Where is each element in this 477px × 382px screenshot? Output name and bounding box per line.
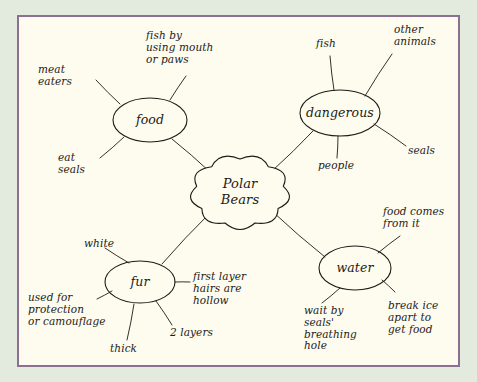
leaf-label-other-animals: other animals [394,24,436,48]
connector-food-to-meat-eaters [96,80,120,104]
leaf-label-eat-seals: eat seals [58,152,85,176]
connector-water-to-food-comes-from-it [378,236,400,253]
leaf-label-thick: thick [110,343,137,355]
leaf-label-used-for-protection-or-camouflage: used for protection or camouflage [28,292,106,327]
branch-node-label-food: food [136,113,164,127]
connector-dangerous-to-seals [374,124,406,146]
connector-center-to-food [172,139,210,172]
branch-node-label-dangerous: dangerous [306,106,374,120]
connector-water-to-wait-by-seals-breathing-hole [322,288,340,303]
poster-background: Polar Bearsfoodmeat eatersfish by using … [0,0,477,382]
leaf-label-wait-by-seals-breathing-hole: wait by seals' breathing hole [304,305,357,352]
leaf-label-first-layer-hairs-are-hollow: first layer hairs are hollow [193,271,246,306]
center-node-label: Polar Bears [221,176,259,209]
leaf-label-2-layers: 2 layers [170,327,213,339]
connector-dangerous-to-other-animals [365,54,392,96]
leaf-label-seals: seals [408,145,435,157]
connector-fur-to-2-layers [156,301,172,325]
connector-fur-to-thick [127,304,134,340]
leaf-label-fish: fish [316,38,336,50]
leaf-label-meat-eaters: meat eaters [38,64,72,88]
connector-center-to-fur [162,213,210,264]
connector-fur-to-white [105,248,129,263]
connector-food-to-eat-seals [100,137,124,158]
connector-center-to-dangerous [272,131,313,171]
leaf-label-white: white [84,238,114,250]
connector-food-to-fish-by-using-mouth-or-paws [170,76,186,100]
connector-center-to-water [273,212,325,257]
leaf-label-people: people [318,160,354,172]
branch-node-label-water: water [336,261,373,275]
leaf-label-food-comes-from-it: food comes from it [383,206,444,230]
leaf-label-break-ice-apart-to-get-food: break ice apart to get food [388,300,438,335]
connector-dangerous-to-fish [330,56,334,90]
branch-node-label-fur: fur [131,275,150,289]
connector-dangerous-to-people [337,136,338,158]
leaf-label-fish-by-using-mouth-or-paws: fish by using mouth or paws [146,30,213,65]
